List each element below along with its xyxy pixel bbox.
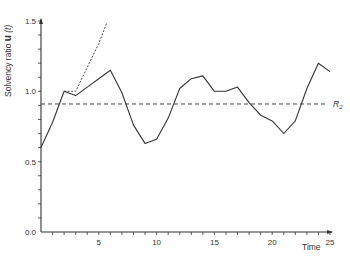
x-tick-label: 5 <box>97 238 102 247</box>
alternative-path-line <box>64 22 107 91</box>
y-axis-title-text: Solvency ratio u (t) <box>2 25 13 97</box>
y-axis-title: Solvency ratio u (t) <box>2 25 13 97</box>
x-tick-label: 25 <box>326 238 335 247</box>
reference-line-label: R2 <box>333 99 343 110</box>
data-series <box>41 22 330 147</box>
y-tick-label: 1.0 <box>25 87 37 96</box>
solvency-ratio-line <box>41 63 330 147</box>
solvency-ratio-chart: Solvency ratio u (t) 5101520250.00.51.01… <box>0 0 350 261</box>
y-tick-label: 0.5 <box>25 158 37 167</box>
reference-lines: R2 <box>41 99 343 110</box>
x-tick-label: 15 <box>210 238 219 247</box>
x-tick-label: 20 <box>268 238 277 247</box>
x-tick-label: 10 <box>152 238 161 247</box>
y-tick-label: 1.5 <box>25 17 37 26</box>
axis-ticks: 5101520250.00.51.01.5 <box>25 17 335 247</box>
x-axis-title: Time <box>302 242 321 252</box>
y-tick-label: 0.0 <box>25 228 37 237</box>
axes <box>39 18 333 234</box>
